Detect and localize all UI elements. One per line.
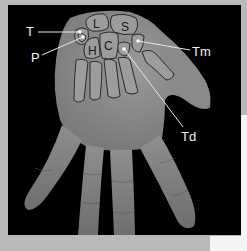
page-margin-bottom	[210, 236, 247, 251]
callout-label-T: T	[26, 24, 34, 39]
finger-middle	[110, 150, 135, 235]
bone-label-S: S	[121, 20, 129, 34]
hand-image-frame: L S H C T P Tm Td	[8, 5, 241, 235]
finger-ring	[78, 145, 104, 235]
metacarpal-4	[90, 61, 102, 100]
finger-little	[24, 125, 82, 210]
finger-index	[140, 135, 195, 228]
callout-label-Td: Td	[181, 129, 196, 144]
page-margin-right	[241, 115, 247, 251]
callout-label-Tm: Tm	[192, 44, 211, 59]
callout-label-P: P	[31, 50, 40, 65]
bone-label-L: L	[93, 17, 100, 31]
bone-label-H: H	[88, 44, 97, 58]
bone-label-C: C	[104, 39, 113, 53]
hand-illustration: L S H C T P Tm Td	[8, 5, 241, 235]
